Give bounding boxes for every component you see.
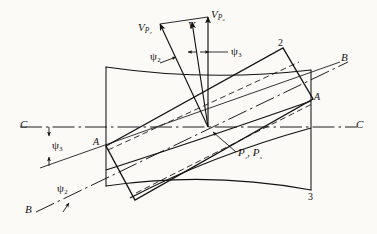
label-axis-b-right: B (341, 52, 348, 63)
label-corner-3: 3 (308, 192, 313, 202)
label-corner-a-right: A (314, 92, 320, 102)
label-v-p3: VP₃ (211, 9, 225, 21)
label-axis-b-left: B (25, 204, 32, 215)
label-psi-3-left: ψ₃ (52, 140, 63, 151)
label-psi-2-left: ψ₂ (57, 183, 68, 194)
label-v: V (188, 20, 195, 31)
secondary-band (40, 62, 340, 168)
velocity-vector-group (160, 17, 208, 127)
label-axis-c-left: C (20, 119, 27, 130)
psi-2-left-leader (63, 203, 69, 212)
label-point-p: P₂, P₃ (238, 147, 262, 159)
band-upper-edge (40, 62, 340, 168)
label-psi-3-top: ψ₃ (231, 46, 242, 57)
label-corner-a-left: A (93, 137, 99, 147)
body-bottom-curve (106, 179, 311, 190)
label-axis-c-right: C (356, 119, 363, 130)
figure-root: VP₂ V VP₃ ψ₂ ψ₃ ψ₃ ψ₂ C C B B A A 2 3 P₂… (0, 0, 377, 234)
psi-2-top-leader (160, 57, 176, 63)
axis-b-line (36, 62, 348, 212)
label-v-p2: VP₂ (138, 22, 152, 34)
label-psi-2-top: ψ₂ (150, 51, 161, 62)
label-corner-2: 2 (278, 38, 283, 48)
vector-tip-connector (160, 17, 208, 24)
diagram-canvas (0, 0, 377, 234)
